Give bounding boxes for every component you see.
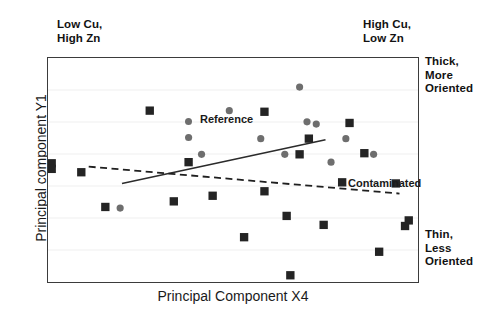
data-point-contaminated <box>146 106 154 114</box>
data-point-contaminated <box>338 178 346 186</box>
data-point-reference <box>313 121 320 128</box>
plot-area: Reference Contaminated <box>47 57 419 283</box>
data-point-contaminated <box>319 221 327 229</box>
scatter-plot-canvas <box>48 58 418 282</box>
data-point-contaminated <box>170 197 178 205</box>
data-point-contaminated <box>260 108 268 116</box>
data-point-reference <box>327 159 334 166</box>
data-point-contaminated <box>240 233 248 241</box>
data-point-reference <box>198 151 205 158</box>
data-point-contaminated <box>401 222 409 230</box>
data-point-reference <box>257 135 264 142</box>
x-axis-title: Principal Component X4 <box>47 288 419 304</box>
data-point-contaminated <box>101 203 109 211</box>
data-point-reference <box>185 134 192 141</box>
annotation-right-bottom: Thin, Less Oriented <box>425 228 473 269</box>
contaminated-series-label: Contaminated <box>348 177 421 189</box>
data-point-contaminated <box>286 271 294 279</box>
data-point-contaminated <box>360 149 368 157</box>
annotation-top-right: High Cu, Low Zn <box>363 18 411 45</box>
trendline-reference <box>122 140 326 184</box>
data-point-reference <box>281 151 288 158</box>
annotation-top-left: Low Cu, High Zn <box>57 18 102 45</box>
data-point-contaminated <box>295 150 303 158</box>
data-point-contaminated <box>184 158 192 166</box>
data-point-contaminated <box>375 248 383 256</box>
data-point-reference <box>296 84 303 91</box>
data-point-contaminated <box>260 187 268 195</box>
data-point-reference <box>370 151 377 158</box>
data-point-contaminated <box>77 168 85 176</box>
data-point-contaminated <box>48 165 56 173</box>
reference-legend-marker <box>185 118 192 125</box>
data-point-contaminated <box>282 212 290 220</box>
data-point-contaminated <box>345 119 353 127</box>
data-point-reference <box>303 118 310 125</box>
annotation-right-top: Thick, More Oriented <box>425 55 473 96</box>
data-point-contaminated <box>208 192 216 200</box>
reference-series-label: Reference <box>200 113 253 125</box>
data-point-contaminated <box>305 134 313 142</box>
data-point-reference <box>117 205 124 212</box>
data-point-reference <box>342 135 349 142</box>
figure-container: Low Cu, High Zn High Cu, Low Zn Thick, M… <box>0 0 500 309</box>
